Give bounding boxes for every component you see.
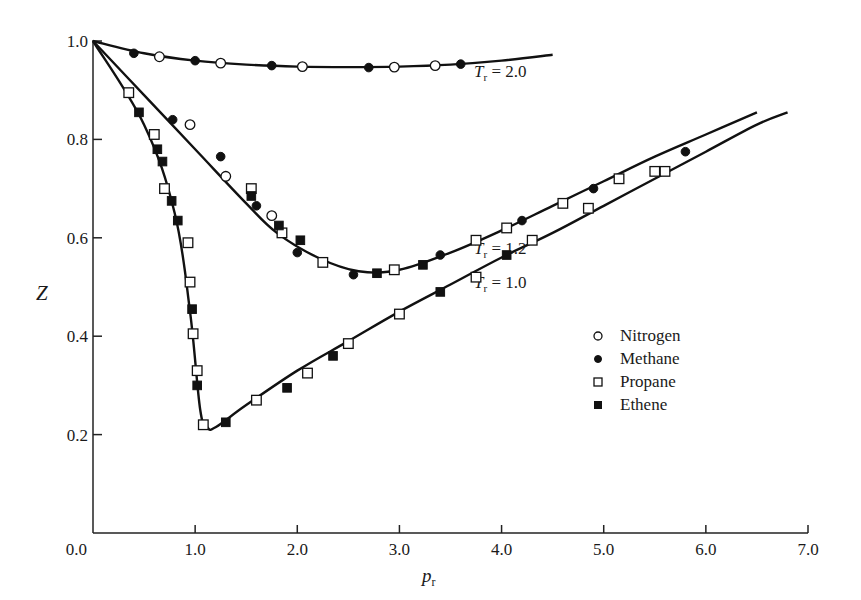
filled-square-marker — [502, 251, 511, 260]
filled-circle-marker — [518, 216, 527, 225]
filled-circle-marker — [130, 49, 139, 58]
x-tick-label: 1.0 — [185, 540, 206, 559]
open-circle-marker — [267, 211, 277, 221]
filled-circle-marker — [267, 61, 276, 70]
filled-square-marker — [193, 381, 202, 390]
legend-label: Nitrogen — [620, 326, 681, 345]
open-square-marker — [471, 272, 481, 282]
legend-item-propane: Propane — [594, 372, 676, 391]
legend-item-ethene: Ethene — [595, 395, 668, 414]
open-square-marker — [527, 235, 537, 245]
filled-circle-marker — [436, 251, 445, 260]
x-tick-label: 7.0 — [797, 540, 818, 559]
open-circle-marker — [185, 120, 195, 130]
x-tick-label: 5.0 — [593, 540, 614, 559]
filled-circle-marker — [216, 152, 225, 161]
open-square-marker — [558, 199, 568, 209]
x-tick-label: 0.0 — [66, 540, 87, 559]
open-circle-marker — [216, 58, 226, 68]
y-tick-label: 0.8 — [67, 130, 88, 149]
open-square-marker — [124, 88, 134, 98]
filled-square-marker — [296, 236, 305, 245]
open-square-marker — [183, 238, 193, 248]
open-square-marker — [188, 329, 198, 339]
open-square-marker — [502, 223, 512, 233]
open-circle-marker — [298, 62, 308, 72]
filled-circle-marker — [589, 184, 598, 193]
filled-circle-marker — [293, 248, 302, 257]
filled-square-marker — [221, 418, 230, 427]
open-square-marker — [303, 368, 313, 378]
filled-square-marker — [373, 269, 382, 278]
legend-item-nitrogen: Nitrogen — [594, 326, 681, 345]
x-ticks: 0.01.02.03.04.05.06.07.0 — [66, 525, 819, 559]
filled-square-marker — [419, 261, 428, 270]
open-circle-marker — [221, 172, 231, 182]
x-tick-label: 6.0 — [695, 540, 716, 559]
filled-circle-marker — [168, 115, 177, 124]
filled-square-marker — [158, 157, 167, 166]
x-tick-label: 3.0 — [389, 540, 410, 559]
y-tick-label: 0.6 — [67, 229, 88, 248]
open-square-marker — [471, 235, 481, 245]
y-tick-label: 0.2 — [67, 426, 88, 445]
filled-circle-marker — [349, 270, 358, 279]
open-square-marker — [149, 130, 159, 140]
open-square-marker — [390, 265, 400, 275]
filled-square-marker — [283, 384, 292, 393]
y-tick-label: 1.0 — [67, 32, 88, 51]
y-axis-title: Z — [36, 281, 48, 305]
x-tick-label: 2.0 — [287, 540, 308, 559]
filled-square-marker — [247, 192, 256, 201]
open-square-marker — [395, 309, 405, 319]
legend-label: Ethene — [620, 395, 667, 414]
filled-square-marker — [135, 108, 144, 117]
open-square-marker — [199, 420, 209, 430]
curve-label: Tr = 1.2 — [474, 239, 526, 260]
legend-label: Propane — [620, 372, 676, 391]
open-circle-marker — [155, 52, 165, 62]
curve-label: Tr = 1.0 — [474, 273, 526, 294]
open-square-marker — [614, 174, 624, 184]
open-circle-marker — [594, 332, 602, 340]
open-square-marker — [160, 184, 170, 194]
x-tick-label: 4.0 — [491, 540, 512, 559]
filled-square-marker — [153, 145, 162, 154]
open-circle-marker — [390, 62, 400, 72]
filled-circle-marker — [456, 60, 465, 69]
compressibility-chart: 0.01.02.03.04.05.06.07.0 0.20.40.60.81.0… — [0, 0, 861, 600]
filled-circle-marker — [681, 147, 690, 156]
curve-label: Tr = 2.0 — [474, 62, 526, 83]
filled-square-marker — [167, 197, 176, 206]
open-square-marker — [650, 167, 660, 177]
filled-square-marker — [173, 216, 182, 225]
open-square-marker — [192, 366, 202, 376]
legend-label: Methane — [620, 349, 679, 368]
axes: 0.01.02.03.04.05.06.07.0 0.20.40.60.81.0… — [36, 32, 819, 589]
filled-circle-marker — [252, 202, 261, 211]
open-circle-marker — [430, 61, 440, 71]
open-square-marker — [252, 395, 262, 405]
legend: NitrogenMethanePropaneEthene — [594, 326, 681, 414]
filled-circle-marker — [595, 356, 602, 363]
filled-circle-marker — [364, 63, 373, 72]
filled-square-marker — [188, 305, 197, 314]
filled-square-marker — [595, 402, 602, 409]
open-square-marker — [344, 339, 354, 349]
open-square-marker — [318, 258, 328, 268]
y-ticks: 0.20.40.60.81.0 — [67, 32, 102, 445]
y-tick-label: 0.4 — [67, 327, 89, 346]
x-axis-title: pr — [420, 565, 436, 589]
filled-circle-marker — [191, 56, 200, 65]
open-square-marker — [185, 277, 195, 287]
filled-square-marker — [329, 352, 338, 361]
open-square-marker — [660, 167, 670, 177]
open-square-marker — [584, 203, 594, 213]
filled-square-marker — [275, 221, 284, 230]
legend-item-methane: Methane — [595, 349, 680, 368]
open-square-marker — [594, 378, 602, 386]
filled-square-marker — [436, 288, 445, 297]
data-markers — [124, 49, 690, 430]
